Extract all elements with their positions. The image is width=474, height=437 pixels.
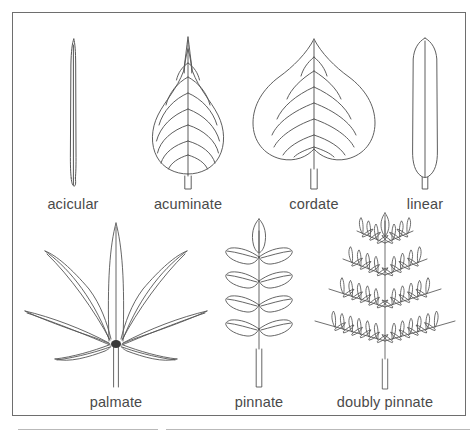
linear-leaf-icon: [385, 33, 465, 193]
leaf-item-linear: linear: [385, 21, 465, 211]
leaf-label-acicular: acicular: [47, 197, 98, 212]
leaf-grid: acicular: [13, 13, 465, 415]
pinnate-leaf-icon: [205, 213, 313, 391]
leaf-item-doubly-pinnate: doubly pinnate: [307, 205, 463, 409]
leaf-item-cordate: cordate: [249, 21, 379, 211]
leaf-label-pinnate: pinnate: [235, 395, 284, 410]
palmate-leaf-icon: [21, 219, 211, 391]
leaf-item-pinnate: pinnate: [205, 209, 313, 409]
cordate-leaf-icon: [249, 33, 379, 193]
footer-rule-right: [166, 429, 470, 430]
figure-border-box: acicular: [12, 12, 466, 416]
leaf-label-palmate: palmate: [90, 395, 143, 410]
footer-rule-left: [18, 429, 158, 430]
leaf-item-acuminate: acuminate: [129, 21, 247, 211]
doubly-pinnate-leaf-icon: [307, 209, 463, 391]
leaf-shapes-figure: acicular: [0, 0, 474, 437]
palmate-node: [111, 340, 121, 348]
acicular-leaf-icon: [17, 33, 129, 193]
leaf-item-acicular: acicular: [17, 21, 129, 211]
leaf-item-palmate: palmate: [21, 213, 211, 409]
leaf-label-doubly-pinnate: doubly pinnate: [337, 395, 433, 410]
acuminate-leaf-icon: [129, 33, 247, 193]
